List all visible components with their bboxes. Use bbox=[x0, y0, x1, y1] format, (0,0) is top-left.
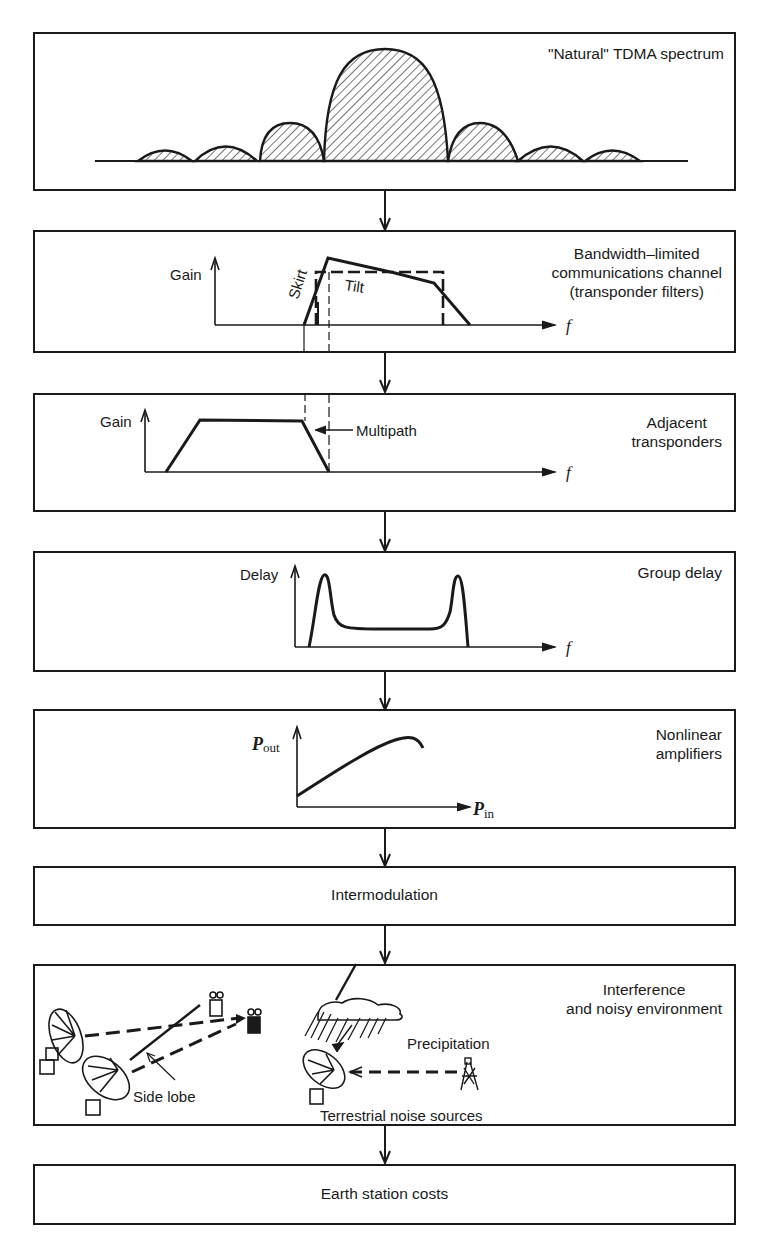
rain-icon bbox=[305, 1012, 386, 1042]
satellite-dish-icon bbox=[40, 1005, 90, 1074]
diagram-canvas: "Natural" TDMA spectrum Bandwidth–limite… bbox=[0, 0, 768, 1250]
side-lobe-annotation: Side lobe bbox=[133, 1088, 196, 1105]
radio-tower-icon bbox=[461, 1058, 478, 1090]
flow-arrow bbox=[375, 1125, 395, 1165]
satellite-dish-icon bbox=[296, 1042, 352, 1104]
precipitation-annotation: Precipitation bbox=[407, 1035, 490, 1052]
television-icon bbox=[248, 1009, 261, 1033]
satellite-dish-icon bbox=[74, 1048, 137, 1115]
stage-label: Earth station costs bbox=[35, 1185, 734, 1203]
interference-figure: Side lobe Precipitation Terrestrial nois bbox=[0, 0, 768, 1140]
cloud-icon bbox=[318, 999, 402, 1020]
stage-earth-station-costs: Earth station costs bbox=[33, 1164, 736, 1225]
television-icon bbox=[210, 992, 223, 1016]
terrestrial-noise-annotation: Terrestrial noise sources bbox=[320, 1107, 483, 1124]
